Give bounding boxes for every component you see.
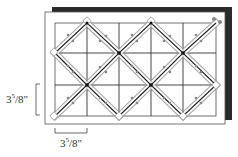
vertical-dimension-label: 35/8": [6, 94, 28, 105]
quilt-layout-diagram: [0, 0, 238, 157]
horizontal-dimension-label: 35/8": [60, 138, 82, 149]
